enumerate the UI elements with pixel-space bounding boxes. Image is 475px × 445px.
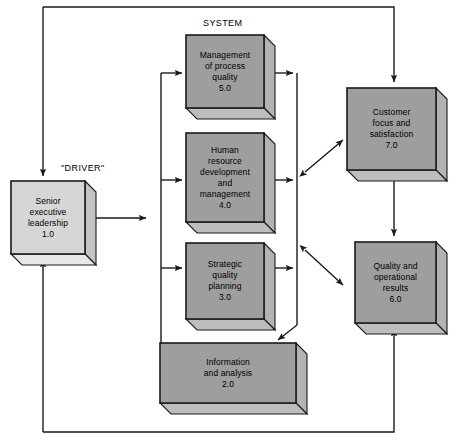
node-quality-and-operational-results (355, 242, 447, 334)
connector-right-rail-to-information (278, 325, 297, 340)
node-strategic-quality-planning-front-face (186, 243, 264, 319)
node-management-of-process-quality (186, 35, 275, 119)
node-human-resource-development-and-management (186, 133, 275, 233)
node-customer-focus-and-satisfaction-bottom-face (347, 170, 447, 181)
driver-caption: "DRIVER" (61, 163, 105, 173)
system-caption: SYSTEM (203, 18, 242, 28)
node-information-and-analysis-side-face (296, 343, 307, 414)
node-senior-executive-leadership (11, 181, 96, 265)
node-strategic-quality-planning-bottom-face (186, 319, 275, 330)
node-quality-and-operational-results-side-face (436, 242, 447, 334)
node-senior-executive-leadership-side-face (85, 181, 96, 265)
node-strategic-quality-planning (186, 243, 275, 330)
node-management-of-process-quality-front-face (186, 35, 264, 108)
node-information-and-analysis (160, 343, 307, 414)
node-management-of-process-quality-side-face (264, 35, 275, 119)
connector-system-to-customer (305, 140, 343, 172)
node-strategic-quality-planning-side-face (264, 243, 275, 330)
node-information-and-analysis-front-face (160, 343, 296, 403)
diagram-canvas (0, 0, 475, 445)
node-human-resource-development-and-management-front-face (186, 133, 264, 222)
nodes-layer (11, 35, 447, 414)
node-senior-executive-leadership-bottom-face (11, 254, 96, 265)
node-quality-and-operational-results-front-face (355, 242, 436, 323)
node-senior-executive-leadership-front-face (11, 181, 85, 254)
node-human-resource-development-and-management-side-face (264, 133, 275, 233)
node-management-of-process-quality-bottom-face (186, 108, 275, 119)
node-information-and-analysis-bottom-face (160, 403, 307, 414)
node-quality-and-operational-results-bottom-face (355, 323, 447, 334)
tqm-framework-diagram: Managementof processquality5.0Humanresou… (0, 0, 475, 445)
node-customer-focus-and-satisfaction (347, 88, 447, 181)
node-human-resource-development-and-management-bottom-face (186, 222, 275, 233)
node-customer-focus-and-satisfaction-side-face (436, 88, 447, 181)
node-customer-focus-and-satisfaction-front-face (347, 88, 436, 170)
connector-system-to-quality-results (305, 250, 343, 285)
